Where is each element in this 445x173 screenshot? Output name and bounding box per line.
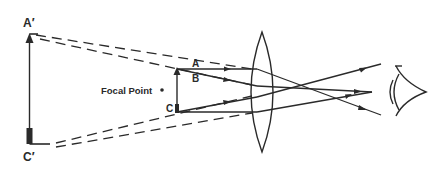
incident-rays (177, 69, 257, 112)
label-b: B (192, 74, 199, 84)
virtual-image-arrow (26, 33, 51, 144)
label-c: C (166, 104, 173, 114)
label-a: A (192, 59, 199, 69)
incident-arrowheads (223, 67, 231, 106)
label-c-prime: C′ (23, 151, 35, 163)
refracted-arrowheads (345, 68, 367, 111)
eye-icon (390, 66, 426, 116)
object-arrow (174, 67, 181, 113)
label-focal-point: Focal Point (101, 86, 152, 96)
focal-point-dot (160, 88, 164, 92)
convex-lens (251, 32, 273, 152)
label-a-prime: A′ (23, 17, 35, 29)
ray-diagram (0, 0, 445, 173)
